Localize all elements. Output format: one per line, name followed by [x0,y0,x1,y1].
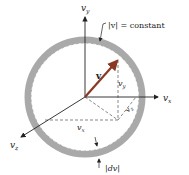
velocity-sphere-diagram: vy vx vz v vy vz vx |v| = constant |dv| [0,0,189,175]
vy-axis-label: vy [81,3,90,15]
constant-annotation: |v| = constant [108,21,165,30]
vz-axis-label: vz [10,140,19,151]
vx-axis-label: vx [163,93,172,104]
dv-annotation: |dv| [105,164,120,173]
constant-leader-line [100,23,106,41]
vector-label: v [95,71,102,81]
